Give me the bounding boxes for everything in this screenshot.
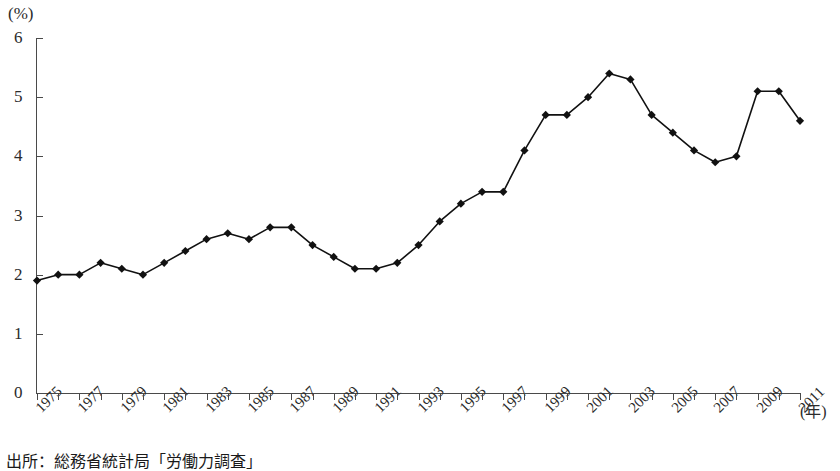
x-tick-mark bbox=[440, 393, 441, 400]
x-tick-mark bbox=[313, 393, 314, 400]
x-tick-mark bbox=[101, 393, 102, 400]
data-point-marker bbox=[457, 200, 465, 208]
data-point-marker bbox=[75, 271, 83, 279]
y-tick-mark bbox=[36, 97, 43, 98]
data-point-marker bbox=[224, 229, 232, 237]
data-point-marker bbox=[499, 188, 507, 196]
y-tick-label: 4 bbox=[14, 147, 23, 164]
data-point-marker bbox=[436, 217, 444, 225]
y-tick-label: 1 bbox=[14, 325, 23, 342]
data-point-marker bbox=[393, 259, 401, 267]
data-point-marker bbox=[181, 247, 189, 255]
data-point-marker bbox=[308, 241, 316, 249]
y-tick-label: 6 bbox=[14, 29, 23, 46]
data-point-marker bbox=[626, 75, 634, 83]
x-tick-mark bbox=[567, 393, 568, 400]
x-tick-mark bbox=[524, 393, 525, 400]
y-tick-mark bbox=[36, 38, 43, 39]
data-point-marker bbox=[266, 223, 274, 231]
data-point-marker bbox=[330, 253, 338, 261]
x-tick-mark bbox=[694, 393, 695, 400]
x-tick-label: 2009 bbox=[754, 384, 786, 416]
data-point-marker bbox=[287, 223, 295, 231]
x-tick-mark bbox=[270, 393, 271, 400]
x-tick-label: 1997 bbox=[499, 384, 531, 416]
data-point-marker bbox=[732, 152, 740, 160]
data-point-marker bbox=[542, 111, 550, 119]
y-tick-mark bbox=[36, 216, 43, 217]
x-tick-label: 1981 bbox=[160, 384, 192, 416]
x-tick-label: 1989 bbox=[330, 384, 362, 416]
x-axis-unit-label: (年) bbox=[800, 404, 827, 420]
y-tick-label: 3 bbox=[14, 207, 23, 224]
source-note: 出所：総務省統計局「労働力調査」 bbox=[6, 452, 262, 471]
x-tick-label: 2003 bbox=[626, 384, 658, 416]
data-point-marker bbox=[118, 265, 126, 273]
data-point-marker bbox=[372, 265, 380, 273]
x-tick-mark bbox=[736, 393, 737, 400]
x-tick-label: 1983 bbox=[203, 384, 235, 416]
x-tick-label: 1985 bbox=[245, 384, 277, 416]
data-point-marker bbox=[414, 241, 422, 249]
x-tick-label: 1993 bbox=[415, 384, 447, 416]
data-point-marker bbox=[478, 188, 486, 196]
x-tick-mark bbox=[228, 393, 229, 400]
x-tick-label: 2001 bbox=[584, 384, 616, 416]
data-point-marker bbox=[584, 93, 592, 101]
series-line-unemployment bbox=[37, 74, 800, 281]
x-tick-label: 1991 bbox=[372, 384, 404, 416]
x-tick-mark bbox=[779, 393, 780, 400]
data-point-marker bbox=[54, 271, 62, 279]
x-tick-mark bbox=[143, 393, 144, 400]
x-tick-label: 1995 bbox=[457, 384, 489, 416]
data-point-marker bbox=[139, 271, 147, 279]
data-point-marker bbox=[711, 158, 719, 166]
y-tick-mark bbox=[36, 156, 43, 157]
y-tick-mark bbox=[36, 275, 43, 276]
x-tick-mark bbox=[355, 393, 356, 400]
y-axis-unit-label: (%) bbox=[8, 4, 33, 24]
x-tick-mark bbox=[185, 393, 186, 400]
data-point-marker bbox=[775, 87, 783, 95]
x-tick-label: 1977 bbox=[75, 384, 107, 416]
data-point-marker bbox=[754, 87, 762, 95]
series-markers-unemployment bbox=[33, 69, 804, 284]
y-tick-label: 5 bbox=[14, 88, 23, 105]
data-point-marker bbox=[245, 235, 253, 243]
y-tick-label: 0 bbox=[14, 384, 23, 401]
y-tick-label: 2 bbox=[14, 266, 23, 283]
x-tick-label: 1975 bbox=[33, 384, 65, 416]
chart-figure: (%) 0123456 1975197719791981198319851987… bbox=[0, 0, 840, 471]
data-point-marker bbox=[160, 259, 168, 267]
data-point-marker bbox=[351, 265, 359, 273]
y-tick-mark bbox=[36, 334, 43, 335]
data-point-marker bbox=[520, 146, 528, 154]
x-tick-label: 1979 bbox=[118, 384, 150, 416]
data-point-marker bbox=[796, 117, 804, 125]
x-tick-label: 2005 bbox=[669, 384, 701, 416]
x-tick-label: 1999 bbox=[542, 384, 574, 416]
data-point-marker bbox=[648, 111, 656, 119]
x-tick-mark bbox=[482, 393, 483, 400]
x-tick-label: 2007 bbox=[711, 384, 743, 416]
x-tick-label: 1987 bbox=[287, 384, 319, 416]
x-tick-mark bbox=[397, 393, 398, 400]
data-point-marker bbox=[563, 111, 571, 119]
data-point-marker bbox=[202, 235, 210, 243]
data-point-marker bbox=[690, 146, 698, 154]
x-tick-mark bbox=[609, 393, 610, 400]
x-tick-mark bbox=[58, 393, 59, 400]
x-tick-mark bbox=[652, 393, 653, 400]
data-point-marker bbox=[605, 69, 613, 77]
data-point-marker bbox=[96, 259, 104, 267]
data-point-marker bbox=[33, 276, 41, 284]
data-point-marker bbox=[669, 129, 677, 137]
